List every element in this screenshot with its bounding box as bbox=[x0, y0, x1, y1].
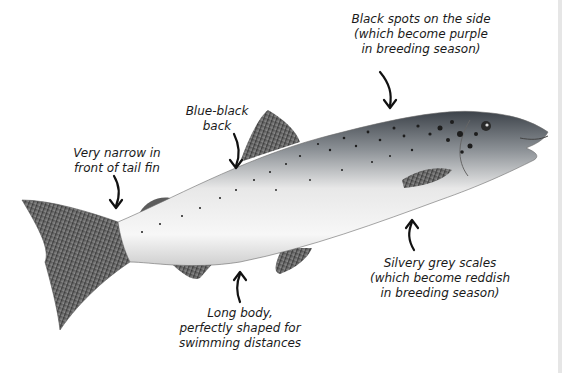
arrow-body bbox=[237, 274, 240, 302]
page-edge-rule bbox=[558, 0, 562, 373]
arrow-tail bbox=[114, 176, 119, 206]
label-blue-black-back: Blue-black back bbox=[162, 104, 272, 134]
label-black-spots: Black spots on the side (which become pu… bbox=[326, 12, 516, 57]
label-long-body: Long body, perfectly shaped for swimming… bbox=[170, 306, 310, 351]
tail-fin bbox=[22, 200, 130, 330]
salmon-diagram: Black spots on the side (which become pu… bbox=[0, 0, 568, 373]
arrow-back bbox=[234, 134, 239, 166]
label-silvery-scales: Silvery grey scales (which become reddis… bbox=[350, 256, 530, 301]
arrow-scales bbox=[409, 222, 414, 250]
fish-body bbox=[118, 111, 548, 265]
label-narrow-tail: Very narrow in front of tail fin bbox=[62, 146, 172, 176]
